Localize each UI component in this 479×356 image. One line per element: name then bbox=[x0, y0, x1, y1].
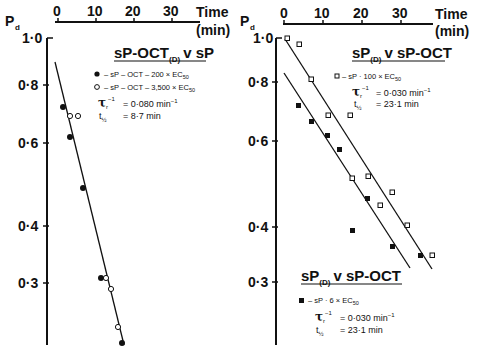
right-y-tick-0-6: 0·6 bbox=[248, 133, 268, 149]
left-halflife-label: t½ bbox=[99, 111, 107, 123]
legend-open-square-icon bbox=[335, 74, 339, 78]
right-panel: P d 0 10 20 30 Time (min) 1·0 0·8 0·6 0·… bbox=[240, 5, 469, 345]
left-y-label: P bbox=[5, 13, 14, 29]
figure: P d 0 10 20 30 Time (min) 1·0 0·8 0·6 0·… bbox=[0, 0, 479, 356]
right-x-tick-10: 10 bbox=[314, 5, 330, 21]
left-annotation: sP-OCT(D)v sP – sP – OCT – 200 × EC50 – … bbox=[94, 44, 214, 123]
legend-open-circle-icon bbox=[95, 85, 100, 90]
right-y-label: P bbox=[240, 13, 249, 29]
left-x-tick-30: 30 bbox=[163, 3, 179, 19]
left-rate-value: = 0·080 min−1 bbox=[123, 98, 178, 109]
right-y-tick-0-4: 0·4 bbox=[248, 219, 268, 235]
right-halflife-value-upper: = 23·1 min bbox=[376, 99, 419, 109]
right-x-label-min: (min) bbox=[435, 23, 469, 39]
left-halflife-value: = 8·7 min bbox=[123, 111, 161, 121]
legend-filled-circle-icon bbox=[94, 71, 99, 76]
right-annotation-upper: sP(D)v sP-OCT – sP · 100 × EC50 τr−1 = 0… bbox=[335, 44, 452, 111]
left-y-tick-1-0: 1·0 bbox=[22, 30, 42, 46]
left-x-tick-0: 0 bbox=[53, 3, 61, 19]
left-x-label-min: (min) bbox=[196, 22, 230, 38]
left-y-label-sub: d bbox=[15, 23, 20, 32]
right-x-tick-30: 30 bbox=[392, 5, 408, 21]
left-y-tick-0-6: 0·6 bbox=[18, 135, 38, 151]
right-x-tick-0: 0 bbox=[280, 5, 288, 21]
right-halflife-value-lower: = 23·1 min bbox=[340, 325, 383, 335]
legend-filled-square-icon bbox=[299, 298, 304, 303]
right-rate-value-lower: = 0·030 min−1 bbox=[340, 312, 395, 323]
right-halflife-label-upper: t½ bbox=[354, 99, 362, 111]
right-rate-label-lower: τr−1 bbox=[315, 310, 333, 324]
left-y-tick-0-8: 0·8 bbox=[18, 77, 38, 93]
left-legend-1: – sP – OCT – 200 × EC50 bbox=[104, 70, 189, 80]
left-y-tick-0-3: 0·3 bbox=[18, 275, 38, 291]
right-y-tick-0-8: 0·8 bbox=[248, 74, 268, 90]
left-x-tick-10: 10 bbox=[87, 3, 103, 19]
right-series-open-squares bbox=[285, 36, 435, 258]
left-fit-line bbox=[55, 62, 124, 345]
right-annotation-lower: sP(D)v sP-OCT – sP · 6 × EC50 τr−1 = 0·0… bbox=[299, 267, 402, 337]
left-x-label-time: Time bbox=[196, 4, 229, 20]
right-rate-value-upper: = 0·030 min−1 bbox=[376, 87, 431, 98]
left-rate-label: τr−1 bbox=[98, 96, 116, 110]
right-x-label-time: Time bbox=[435, 6, 468, 22]
left-panel: P d 0 10 20 30 Time (min) 1·0 0·8 0·6 0·… bbox=[5, 3, 230, 346]
right-legend-lower: – sP · 6 × EC50 bbox=[308, 296, 359, 306]
right-series-filled-squares bbox=[296, 103, 423, 258]
right-y-tick-1-0: 1·0 bbox=[253, 30, 273, 46]
right-halflife-label-lower: t½ bbox=[316, 325, 324, 337]
left-legend-2: – sP – OCT – 3,500 × EC50 bbox=[104, 83, 195, 93]
right-y-tick-0-3: 0·3 bbox=[248, 274, 268, 290]
right-x-tick-20: 20 bbox=[353, 5, 369, 21]
right-legend-upper: – sP · 100 × EC50 bbox=[342, 72, 401, 82]
left-y-tick-0-4: 0·4 bbox=[18, 218, 38, 234]
left-x-tick-20: 20 bbox=[125, 3, 141, 19]
right-rate-label-upper: τr−1 bbox=[352, 85, 370, 99]
